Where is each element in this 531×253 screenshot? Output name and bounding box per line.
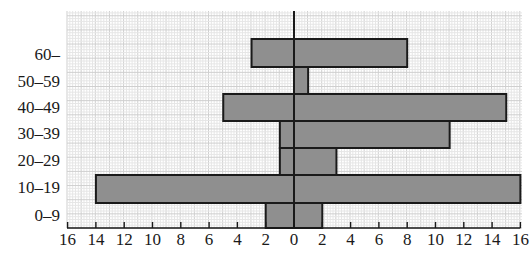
x-tick-label: 2 [318, 230, 327, 250]
x-tick-label: 2 [261, 230, 270, 250]
x-tick-label: 12 [116, 230, 133, 250]
x-tick-label: 16 [512, 230, 529, 250]
age-group-label: 30–39 [18, 124, 61, 144]
x-tick-label: 4 [346, 230, 355, 250]
x-tick-label: 6 [375, 230, 384, 250]
bar-left-60– [252, 39, 294, 67]
x-tick-label: 10 [144, 230, 161, 250]
x-tick-label: 0 [290, 230, 299, 250]
age-group-label: 20–29 [18, 151, 61, 171]
age-group-label: 60– [35, 45, 61, 65]
age-group-label: 50–59 [18, 72, 61, 92]
x-tick-label: 12 [455, 230, 472, 250]
x-tick-label: 10 [427, 230, 444, 250]
age-group-label: 10–19 [18, 178, 61, 198]
x-tick-label: 8 [403, 230, 412, 250]
population-pyramid-chart [0, 0, 531, 253]
bar-left-40–49 [223, 94, 294, 121]
x-tick-label: 6 [205, 230, 214, 250]
bar-right-30–39 [294, 121, 450, 148]
bar-right-0–9 [294, 203, 322, 228]
bar-left-30–39 [280, 121, 294, 148]
x-tick-label: 16 [59, 230, 76, 250]
age-group-label: 40–49 [18, 98, 61, 118]
bar-right-40–49 [294, 94, 506, 121]
bar-left-0–9 [266, 203, 294, 228]
bar-left-20–29 [280, 148, 294, 176]
x-tick-label: 14 [484, 230, 501, 250]
x-tick-label: 8 [177, 230, 186, 250]
bar-right-10–19 [294, 175, 520, 203]
x-tick-label: 14 [87, 230, 104, 250]
bar-right-60– [294, 39, 407, 67]
chart-bars [96, 39, 521, 228]
x-tick-label: 4 [233, 230, 242, 250]
bar-left-10–19 [96, 175, 294, 203]
bar-right-20–29 [294, 148, 336, 176]
age-group-label: 0–9 [35, 206, 61, 226]
bar-right-50–59 [294, 67, 308, 95]
